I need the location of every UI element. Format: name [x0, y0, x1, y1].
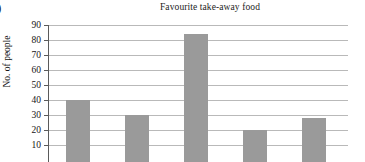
y-tick-mark [44, 40, 49, 41]
y-tick-mark [44, 100, 49, 101]
y-tick-label: 70 [15, 50, 41, 60]
bar [302, 118, 326, 162]
y-tick-mark [44, 145, 49, 146]
chart-title: Favourite take-away food [120, 1, 300, 13]
y-axis-labels: No. of people 908070605040302010 [0, 0, 48, 162]
y-tick-mark [44, 55, 49, 56]
bar [243, 130, 267, 162]
y-tick-label: 10 [15, 140, 41, 150]
y-tick-label: 90 [15, 20, 41, 30]
bar [125, 115, 149, 162]
y-axis-line [48, 25, 49, 162]
bar [184, 34, 208, 162]
y-tick-label: 80 [15, 35, 41, 45]
y-tick-label: 40 [15, 95, 41, 105]
gridline [48, 25, 348, 26]
y-tick-mark [44, 25, 49, 26]
y-tick-label: 50 [15, 80, 41, 90]
y-tick-label: 30 [15, 110, 41, 120]
plot-area [48, 25, 348, 162]
y-tick-mark [44, 130, 49, 131]
y-tick-mark [44, 85, 49, 86]
y-tick-label: 20 [15, 125, 41, 135]
y-tick-label: 60 [15, 65, 41, 75]
y-axis-title: No. of people [2, 12, 13, 112]
chart-figure: ) Favourite take-away food No. of people… [0, 0, 365, 162]
y-tick-mark [44, 70, 49, 71]
y-tick-mark [44, 115, 49, 116]
bar [66, 100, 90, 162]
